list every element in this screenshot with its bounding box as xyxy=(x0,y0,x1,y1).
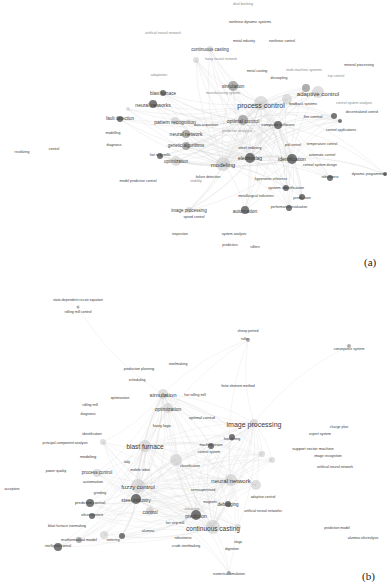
keyword-label: semisupervised xyxy=(191,489,215,493)
keyword-label: mobile robot xyxy=(130,469,149,473)
keyword-label: prediction xyxy=(185,514,207,519)
keyword-label: nonlinear control xyxy=(269,40,295,44)
network-node xyxy=(259,451,265,457)
keyword-label: rolling mill xyxy=(82,404,98,408)
keyword-label: debugging xyxy=(217,503,238,508)
keyword-label: deal banking xyxy=(233,3,253,7)
keyword-label: reutilizing xyxy=(15,151,30,155)
keyword-label: dynamic programming xyxy=(352,173,387,177)
keyword-label: inspection xyxy=(172,233,188,237)
keyword-label: blast furnace xyxy=(150,92,176,97)
network-node xyxy=(193,57,199,63)
keyword-label: fuzzy logic xyxy=(153,424,172,428)
keyword-label: temperature control xyxy=(307,143,337,147)
keyword-label: control xyxy=(142,510,157,515)
network-edge xyxy=(189,164,223,210)
keyword-label: system analysis xyxy=(222,233,247,237)
keyword-label: conveyance system xyxy=(334,348,365,352)
keyword-label: image processing xyxy=(227,421,282,428)
keyword-label: stability xyxy=(190,180,202,184)
keyword-label: pid control xyxy=(285,144,301,148)
keyword-label: automation xyxy=(83,480,103,484)
network-node xyxy=(100,439,106,445)
network-node xyxy=(119,533,125,539)
network-edge xyxy=(103,394,163,442)
keyword-label: numerical simulation xyxy=(213,573,245,577)
keyword-label: machine vision xyxy=(199,444,222,448)
keyword-label: sheep jointed xyxy=(238,330,259,334)
network-node xyxy=(126,107,130,111)
keyword-label: multi-machine systems xyxy=(286,69,322,73)
keyword-label: automatic control xyxy=(309,154,336,158)
keyword-label: modeling xyxy=(80,455,96,459)
keyword-label: neural network xyxy=(170,132,203,137)
keyword-label: mathematical model xyxy=(61,538,97,542)
keyword-label: prediction model xyxy=(324,527,350,531)
keyword-label: steel industry xyxy=(121,498,150,503)
keyword-label: robustness xyxy=(321,176,338,180)
keyword-label: robustness xyxy=(174,537,191,541)
keyword-label: optimal control xyxy=(189,416,215,420)
keyword-label: rolling mill control xyxy=(64,311,91,315)
keyword-label: simulation xyxy=(149,392,176,398)
keyword-label: alumina electrolysis xyxy=(348,537,379,541)
keyword-label: italy xyxy=(124,461,130,465)
keyword-label: adaptive control xyxy=(251,496,276,500)
keyword-label: optimal control xyxy=(227,119,260,124)
network-diagram-b: state-dependent riccati equationrolling … xyxy=(0,290,387,588)
keyword-label: predictors xyxy=(222,244,237,248)
network-edge xyxy=(254,346,349,423)
keyword-label: optimization xyxy=(111,397,130,401)
keyword-label: nonlinear dynamic systems xyxy=(229,21,271,25)
keyword-label: scheduling xyxy=(129,379,146,383)
keyword-label: blast furnace xyxy=(126,444,163,451)
keyword-label: neural networks xyxy=(135,103,170,108)
keyword-label: rollers xyxy=(250,246,260,250)
keyword-label: neural network xyxy=(211,478,250,484)
network-edge xyxy=(208,49,223,164)
keyword-label: steelmaking xyxy=(169,363,188,367)
keyword-label: hot rolling mill xyxy=(184,394,205,398)
keyword-label: process control xyxy=(82,471,113,476)
keyword-label: fault detection xyxy=(106,117,134,122)
keyword-label: predictive analytics xyxy=(222,130,252,134)
keyword-label: control system design xyxy=(303,164,337,168)
network-node xyxy=(338,119,342,123)
keyword-label: principal component analysis xyxy=(43,442,88,446)
keyword-label: diagnosis xyxy=(107,144,122,148)
keyword-label: sintering xyxy=(106,539,119,543)
keyword-label: power quality xyxy=(46,470,67,474)
keyword-label: adaptation xyxy=(151,74,167,78)
keyword-label: automation xyxy=(233,209,258,214)
keyword-label: blast furnace ironmaking xyxy=(48,525,86,529)
keyword-label: charge plan xyxy=(330,426,348,430)
panel-label-a: (a) xyxy=(364,256,376,268)
keyword-label: image recognition xyxy=(314,455,342,459)
keyword-label: modeling xyxy=(211,162,235,168)
network-node xyxy=(269,457,275,463)
keyword-label: prediction xyxy=(293,196,310,200)
keyword-label: fuzzy neural network xyxy=(205,58,237,62)
keyword-label: control applications xyxy=(326,129,356,133)
keyword-label: silicon content xyxy=(81,514,103,518)
keyword-label: grinding xyxy=(94,492,106,496)
keyword-label: system identification xyxy=(268,186,304,190)
keyword-label: identification xyxy=(278,157,306,162)
keyword-label: simulation xyxy=(222,84,245,89)
keyword-label: pattern recognition xyxy=(154,120,195,125)
keyword-label: extraction xyxy=(184,508,199,512)
keyword-label: slags xyxy=(234,541,242,545)
keyword-label: modelling xyxy=(106,132,121,136)
keyword-label: hot strip mill xyxy=(166,522,185,526)
keyword-label: production planning xyxy=(124,368,155,372)
keyword-label: control system xyxy=(198,451,221,455)
keyword-label: artificial neural network xyxy=(145,32,181,36)
network-edge xyxy=(223,164,245,210)
keyword-label: identification xyxy=(82,433,101,437)
keyword-label: digestion xyxy=(225,548,239,552)
keyword-label: hypersonic inference xyxy=(255,178,287,182)
keyword-label: classification xyxy=(180,465,200,469)
keyword-label: data acquisition xyxy=(194,124,218,128)
keyword-label: houghing xyxy=(224,437,240,441)
keyword-label: genetic algorithms xyxy=(168,144,205,149)
